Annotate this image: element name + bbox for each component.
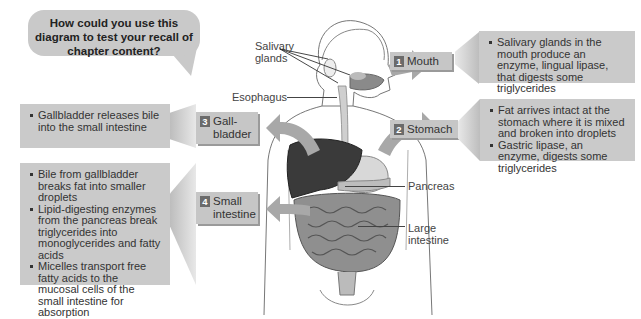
step-number-badge: 2 <box>394 124 404 135</box>
step-3-gallbladder: 3 Gall-bladder <box>196 112 258 144</box>
note-item: Salivary glands in the mouth produce an … <box>489 37 627 95</box>
connector-gallbladder <box>170 104 196 148</box>
note-item: Gallbladder releases bile into the small… <box>30 110 162 133</box>
note-item: Gastric lipase, an enzyme, digests some … <box>490 140 627 175</box>
connector-stomach <box>458 99 480 161</box>
step-label: Gall-bladder <box>213 115 253 141</box>
note-item: Fat arrives intact at the stomach where … <box>490 105 627 140</box>
salivary-leader-lines <box>280 45 360 85</box>
connector-mouth <box>455 32 479 84</box>
label-pancreas: Pancreas <box>408 180 454 192</box>
info-box-mouth: Salivary glands in the mouth produce an … <box>479 31 635 83</box>
step-label: Stomach <box>407 123 452 136</box>
step-number-badge: 1 <box>394 56 404 67</box>
label-large-intestine: Large intestine <box>408 222 458 246</box>
note-item: Bile from gallbladder breaks fat into sm… <box>30 169 162 204</box>
step-1-mouth: 1 Mouth <box>390 52 452 70</box>
info-box-small-intestine: Bile from gallbladder breaks fat into sm… <box>20 163 170 285</box>
info-box-gallbladder: Gallbladder releases bile into the small… <box>20 104 170 148</box>
pancreas-leader-line <box>345 186 405 187</box>
step-number-badge: 4 <box>200 196 210 207</box>
note-item: Lipid-digesting enzymes from the pancrea… <box>30 204 162 262</box>
connector-small-intestine <box>170 163 196 285</box>
question-text: How could you use this diagram to test y… <box>35 17 193 57</box>
info-box-stomach: Fat arrives intact at the stomach where … <box>480 99 635 161</box>
note-item: Micelles transport free fatty acids to t… <box>30 261 162 319</box>
label-esophagus: Esophagus <box>232 91 287 103</box>
step-4-small-intestine: 4 Small intestine <box>196 192 258 224</box>
esophagus-leader-line <box>287 97 337 98</box>
large-intestine-leader-line <box>358 226 405 227</box>
step-label: Mouth <box>407 55 439 68</box>
step-2-stomach: 2 Stomach <box>390 120 458 138</box>
step-label: Small intestine <box>213 195 255 221</box>
question-bubble: How could you use this diagram to test y… <box>28 10 200 56</box>
step-number-badge: 3 <box>200 116 210 127</box>
